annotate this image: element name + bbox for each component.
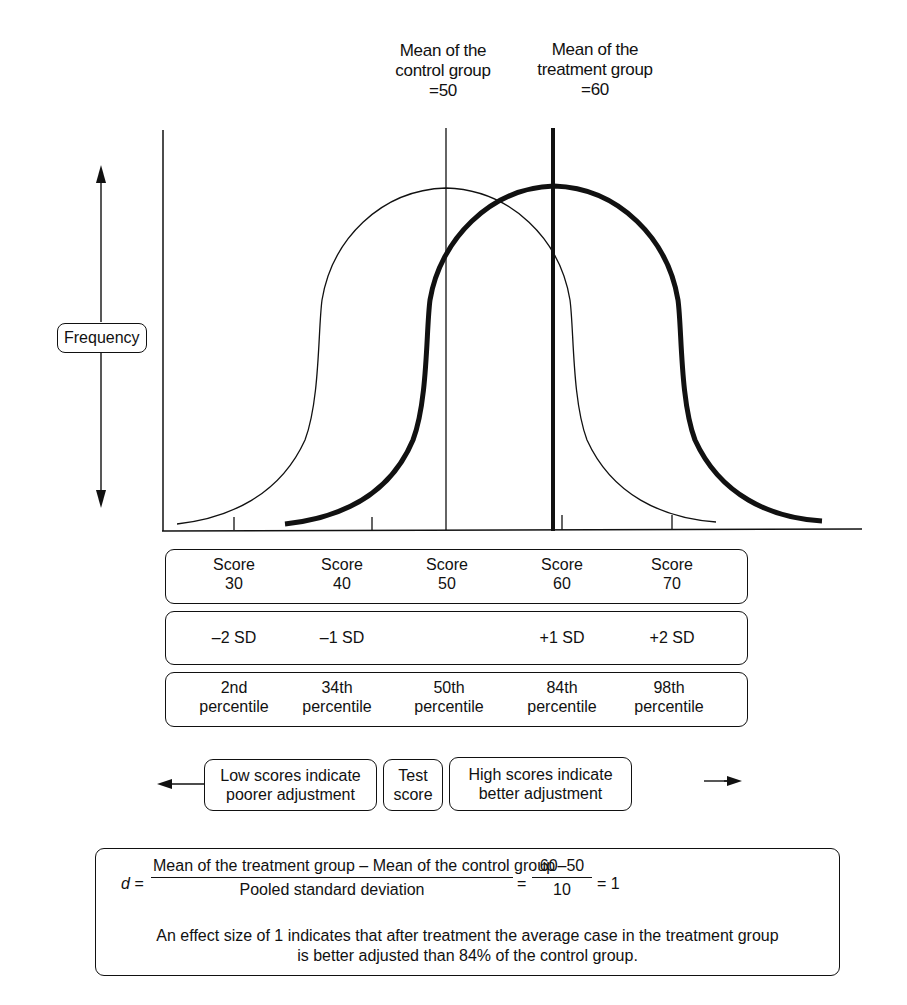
score-cell-50: Score50 xyxy=(426,555,468,593)
treatment-mean-annotation: Mean of the treatment group =60 xyxy=(515,40,675,100)
control-mean-annotation: Mean of the control group =50 xyxy=(368,41,518,101)
frequency-label: Frequency xyxy=(57,323,147,353)
score-row: Score30 Score40 Score50 Score60 Score70 xyxy=(165,549,748,604)
percentile-row: 2ndpercentile 34thpercentile 50thpercent… xyxy=(165,672,748,727)
test-score-box: Testscore xyxy=(383,759,443,811)
sd-cell-minus1: –1 SD xyxy=(320,628,364,647)
percentile-cell-34: 34thpercentile xyxy=(302,678,371,716)
percentile-cell-50: 50thpercentile xyxy=(414,678,483,716)
sd-cell-plus2: +2 SD xyxy=(650,628,695,647)
percentile-cell-84: 84thpercentile xyxy=(527,678,596,716)
formula-result: = 1 xyxy=(597,875,620,893)
low-direction-arrow xyxy=(157,779,205,789)
sd-cell-plus1: +1 SD xyxy=(540,628,585,647)
formula-explanation: An effect size of 1 indicates that after… xyxy=(96,926,839,966)
sd-row: –2 SD –1 SD +1 SD +2 SD xyxy=(165,611,748,665)
effect-size-formula-box: d = Mean of the treatment group – Mean o… xyxy=(95,848,840,976)
high-direction-arrow xyxy=(704,776,742,786)
formula-lhs: d = xyxy=(121,875,144,893)
x-axis xyxy=(162,529,862,531)
low-scores-box: Low scores indicatepoorer adjustment xyxy=(204,759,377,811)
score-cell-60: Score60 xyxy=(541,555,583,593)
formula-value-fraction: 60–50 10 xyxy=(532,857,592,899)
percentile-cell-98: 98thpercentile xyxy=(634,678,703,716)
formula-main-fraction: Mean of the treatment group – Mean of th… xyxy=(151,857,513,899)
score-cell-30: Score30 xyxy=(213,555,255,593)
score-cell-40: Score40 xyxy=(321,555,363,593)
sd-cell-minus2: –2 SD xyxy=(212,628,256,647)
percentile-cell-2: 2ndpercentile xyxy=(199,678,268,716)
high-scores-box: High scores indicatebetter adjustment xyxy=(449,757,632,811)
score-cell-70: Score70 xyxy=(651,555,693,593)
formula-eq1: = xyxy=(517,875,526,893)
